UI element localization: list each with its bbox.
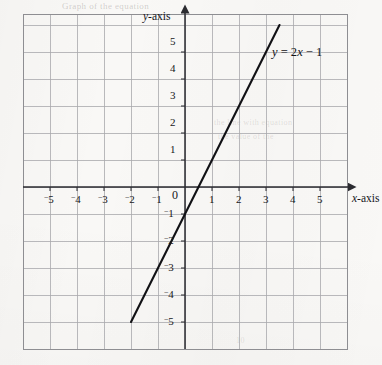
y-tick-label--2: −2 [164, 235, 174, 246]
y-axis-label-suffix: -axis [148, 10, 170, 22]
y-tick-label-4: 4 [170, 63, 176, 74]
y-tick-label--3: −3 [164, 262, 174, 273]
y-axis-label: y-axis [143, 10, 170, 22]
x-tick-label-1: 1 [209, 194, 215, 205]
y-tick-label--5: −5 [164, 316, 174, 327]
x-tick-label--3: −3 [98, 194, 108, 205]
y-tick-label-2: 2 [170, 117, 176, 128]
equation-label: y = 2x − 1 [272, 45, 322, 60]
x-tick-label-3: 3 [263, 194, 269, 205]
origin-label: 0 [172, 189, 178, 201]
y-tick-label-1: 1 [170, 144, 176, 155]
x-tick-label--5: −5 [44, 194, 54, 205]
data-line-y-equals-2x-minus-1 [131, 25, 280, 322]
x-tick-label-2: 2 [236, 194, 242, 205]
x-tick-label--1: −1 [152, 194, 162, 205]
equation-rest: − 1 [303, 45, 323, 59]
y-tick-label--1: −1 [164, 208, 174, 219]
x-tick-label-5: 5 [317, 194, 323, 205]
equation-equals: = 2 [278, 45, 298, 59]
coordinate-plot [0, 0, 382, 365]
x-tick-label--2: −2 [125, 194, 135, 205]
y-tick-label-5: 5 [170, 36, 176, 47]
y-tick-label--4: −4 [164, 289, 174, 300]
x-tick-label--4: −4 [71, 194, 81, 205]
x-axis-label: x-axis [352, 192, 379, 204]
x-tick-label-4: 4 [290, 194, 296, 205]
chart-page: Graph of the equation the line with equa… [0, 0, 382, 365]
x-axis-label-suffix: -axis [357, 192, 379, 204]
y-tick-label-3: 3 [170, 90, 176, 101]
